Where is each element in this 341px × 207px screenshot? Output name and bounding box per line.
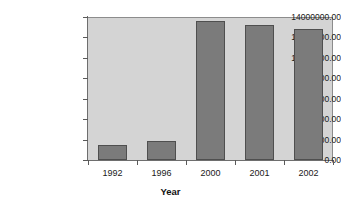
x-tick-label-2001: 2001 [235, 168, 284, 179]
x-tick-mark-5 [333, 160, 334, 165]
x-tick-mark-2 [186, 160, 187, 165]
bar-2001 [245, 25, 273, 160]
bar-1996 [147, 141, 175, 160]
y-tick-label-14000000: 14000000.00 [257, 13, 341, 22]
y-tick-mark-2000000 [83, 140, 88, 141]
y-tick-mark-10000000 [83, 58, 88, 59]
y-tick-mark-8000000 [83, 78, 88, 79]
bar-2000 [196, 21, 224, 160]
x-axis-title: Year [0, 186, 341, 197]
bar-2002 [294, 29, 322, 160]
x-tick-label-2000: 2000 [186, 168, 235, 179]
bar-chart: 14000000.00 12000000.00 10000000.00 8000… [0, 0, 341, 207]
y-tick-mark-14000000 [83, 17, 88, 18]
y-tick-mark-12000000 [83, 37, 88, 38]
x-tick-mark-4 [284, 160, 285, 165]
y-tick-mark-4000000 [83, 119, 88, 120]
bar-1992 [98, 145, 126, 160]
y-tick-mark-6000000 [83, 99, 88, 100]
x-tick-mark-3 [235, 160, 236, 165]
x-tick-mark-1 [137, 160, 138, 165]
x-tick-label-2002: 2002 [284, 168, 333, 179]
x-tick-label-1992: 1992 [88, 168, 137, 179]
x-tick-mark-0 [88, 160, 89, 165]
x-tick-label-1996: 1996 [137, 168, 186, 179]
